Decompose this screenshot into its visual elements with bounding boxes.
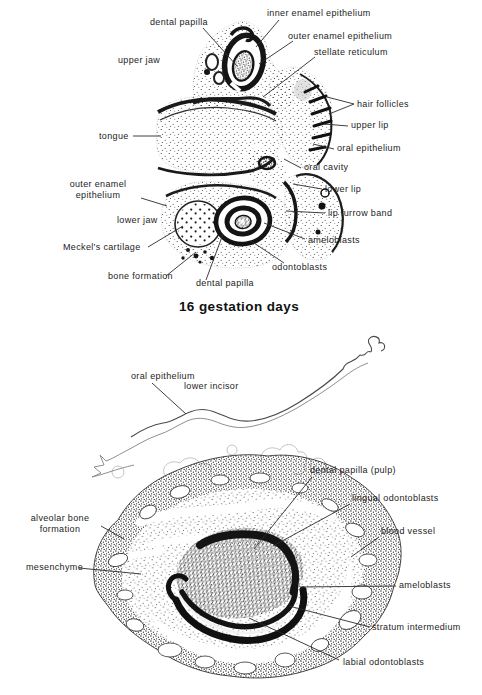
label-stellate-reticulum: stellate reticulum (314, 47, 388, 58)
label-lip-furrow-band: lip furrow band (328, 208, 392, 219)
label-lower-incisor: lower incisor (184, 381, 239, 392)
incisor-section-mass (94, 455, 401, 678)
snout-upper-lip-section (269, 67, 332, 168)
label-stratum-intermedium: stratum intermedium (372, 622, 461, 633)
label-dental-papilla-upper: dental papilla (150, 17, 208, 28)
label-upper-lip: upper lip (351, 120, 389, 131)
label-meckels-cartilage: Meckel's cartilage (63, 242, 141, 253)
label-odontoblasts: odontoblasts (272, 262, 327, 273)
label-outer-enamel-epithelium-upper: outer enamel epithelium (288, 31, 392, 42)
label-oral-cavity: oral cavity (304, 162, 348, 173)
label-blood-vessel: blood vessel (381, 526, 435, 537)
label-ameloblasts-panel2: ameloblasts (399, 580, 451, 591)
label-outer-enamel-epithelium-lower: outer enamel epithelium (56, 179, 140, 201)
label-lower-jaw: lower jaw (117, 215, 158, 226)
meckels-cartilage-shape (177, 203, 219, 245)
label-oral-epithelium: oral epithelium (337, 143, 401, 154)
label-labial-odontoblasts: labial odontoblasts (343, 657, 424, 668)
label-hair-follicles: hair follicles (357, 99, 409, 110)
label-dental-papilla-pulp: dental papilla (pulp) (310, 465, 396, 476)
embryo-tooth-development-figure: inner enamel epithelium dental papilla o… (0, 0, 482, 695)
label-alveolar-bone-formation: alveolar bone formation (20, 513, 100, 535)
label-lingual-odontoblasts: lingual odontoblasts (352, 493, 439, 504)
label-upper-jaw: upper jaw (118, 55, 160, 66)
panel1-caption: 16 gestation days (171, 299, 307, 314)
label-bone-formation: bone formation (108, 271, 173, 282)
label-tongue: tongue (99, 131, 129, 142)
label-dental-papilla-lower: dental papilla (196, 278, 254, 289)
label-lower-lip: lower lip (325, 184, 361, 195)
label-mesenchyme: mesenchyme (26, 562, 83, 573)
lower-jaw-section (161, 182, 290, 268)
label-ameloblasts-panel1: ameloblasts (308, 235, 360, 246)
oral-floor-section (246, 148, 286, 190)
label-inner-enamel-epithelium: inner enamel epithelium (267, 8, 371, 19)
